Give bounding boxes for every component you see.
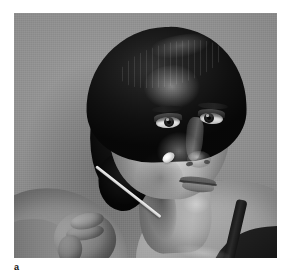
figure-label: a: [14, 262, 19, 273]
figure-panel: a: [0, 0, 289, 277]
chin-highlight: [180, 195, 214, 217]
clinical-photograph: [14, 13, 277, 258]
